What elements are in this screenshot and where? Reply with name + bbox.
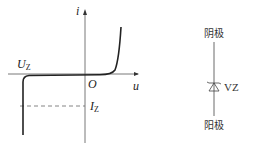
- iv-characteristic-plot: [0, 0, 267, 150]
- origin-label: O: [88, 78, 97, 90]
- iv-curve: [23, 27, 121, 135]
- y-axis-arrow-icon: [83, 9, 87, 15]
- zener-diode-figure: i u O UZ IZ 阴极 阳极 VZ: [0, 0, 267, 150]
- breakdown-voltage-label: UZ: [17, 58, 31, 72]
- x-axis-arrow-icon: [134, 72, 139, 76]
- anode-label: 阳极: [204, 121, 224, 131]
- cathode-label: 阴极: [204, 29, 224, 39]
- zener-current-label: IZ: [90, 100, 99, 114]
- x-axis-label: u: [133, 80, 139, 92]
- y-axis-label: i: [76, 5, 79, 17]
- component-label: VZ: [224, 82, 239, 93]
